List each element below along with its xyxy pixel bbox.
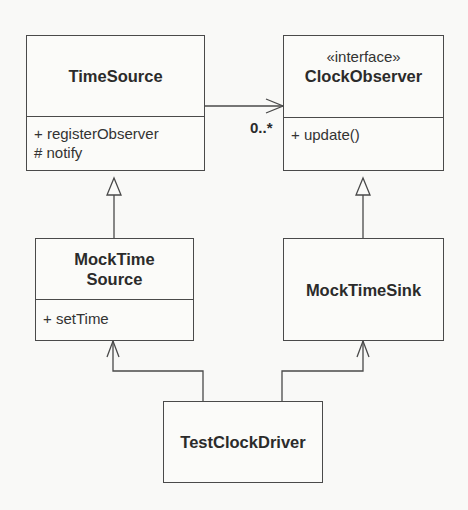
class-name: MockTimeSink: [306, 280, 421, 300]
operations-compartment: + update(): [284, 117, 443, 170]
stereotype-label: «interface»: [326, 48, 400, 66]
operation-settime: + setTime: [43, 309, 193, 328]
class-name: TimeSource: [68, 66, 162, 86]
class-name-compartment: TestClockDriver: [164, 402, 322, 482]
navigation-arrow-mocktimesink: [282, 341, 369, 401]
operations-compartment: + registerObserver # notify: [27, 116, 204, 170]
class-name-line1: MockTime: [74, 249, 154, 269]
class-mocktimesource[interactable]: MockTime Source + setTime: [35, 238, 194, 341]
uml-diagram: 0..* TimeSource + registerObserver # not…: [0, 0, 468, 510]
operation-registerobserver: + registerObserver: [34, 124, 204, 143]
operation-notify: # notify: [34, 143, 204, 162]
class-testclockdriver[interactable]: TestClockDriver: [163, 401, 323, 483]
association-arrow: [204, 99, 283, 113]
navigation-arrow-mocktimesource: [107, 341, 203, 401]
class-name: ClockObserver: [305, 66, 422, 86]
class-mocktimesink[interactable]: MockTimeSink: [283, 238, 444, 341]
generalization-arrow-clockobserver: [356, 178, 370, 238]
class-name-compartment: MockTimeSink: [284, 239, 443, 340]
generalization-arrow-timesource: [107, 178, 121, 238]
operations-compartment: + setTime: [36, 299, 193, 340]
class-name-compartment: MockTime Source: [36, 239, 193, 299]
class-clockobserver[interactable]: «interface» ClockObserver + update(): [283, 35, 444, 171]
class-name: TestClockDriver: [180, 432, 305, 452]
class-name-line2: Source: [87, 269, 143, 289]
class-timesource[interactable]: TimeSource + registerObserver # notify: [26, 35, 205, 171]
class-name-compartment: TimeSource: [27, 36, 204, 116]
operation-update: + update(): [291, 125, 443, 144]
class-name-compartment: «interface» ClockObserver: [284, 36, 443, 117]
association-multiplicity: 0..*: [250, 119, 273, 136]
